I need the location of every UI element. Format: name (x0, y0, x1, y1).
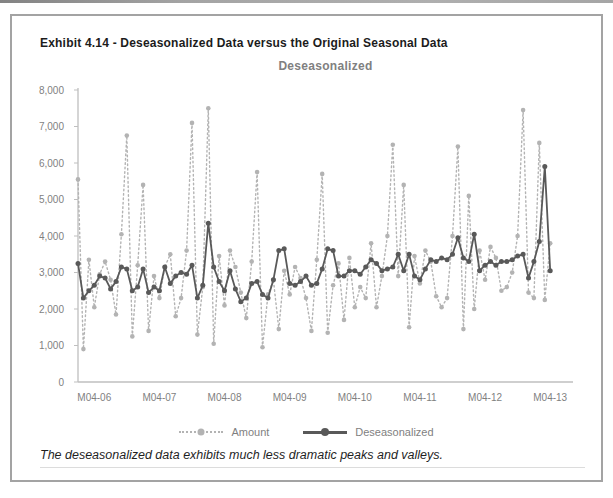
amount-data-point-marker (472, 307, 477, 312)
y-tick-label: 1,000 (39, 340, 64, 351)
deseasonalized-data-point-marker (374, 261, 379, 266)
deseasonalized-data-point-marker (504, 259, 509, 264)
deseasonalized-data-point-marker (238, 299, 243, 304)
amount-data-point-marker (190, 121, 195, 126)
deseasonalized-data-point-marker (493, 263, 498, 268)
x-tick-label: M04-06 (77, 392, 111, 403)
deseasonalized-data-point-marker (200, 283, 205, 288)
deseasonalized-data-point-marker (233, 286, 238, 291)
deseasonalized-data-point-marker (130, 288, 135, 293)
amount-data-point-marker (157, 296, 162, 301)
deseasonalized-data-point-marker (179, 270, 184, 275)
amount-data-point-marker (304, 296, 309, 301)
deseasonalized-data-point-marker (162, 265, 167, 270)
legend-label-amount: Amount (231, 426, 269, 438)
y-tick-label: 7,000 (39, 121, 64, 132)
amount-data-point-marker (309, 329, 314, 334)
amount-data-point-marker (467, 194, 472, 199)
deseasonalized-data-point-marker (472, 232, 477, 237)
deseasonalized-data-point-marker (412, 274, 417, 279)
x-tick-label: M04-08 (208, 392, 242, 403)
amount-data-point-marker (249, 259, 254, 264)
amount-data-point-marker (206, 106, 211, 111)
amount-data-point-marker (347, 256, 352, 261)
deseasonalized-data-point-marker (526, 276, 531, 281)
amount-data-point-marker (92, 305, 97, 310)
caption-rule (40, 467, 585, 468)
deseasonalized-data-point-marker (531, 259, 536, 264)
amount-data-point-marker (543, 298, 548, 303)
amount-data-point-marker (434, 294, 439, 299)
amount-data-point-marker (152, 274, 157, 279)
y-tick-label: 4,000 (39, 231, 64, 242)
deseasonalized-data-point-marker (450, 252, 455, 257)
amount-data-point-marker (184, 248, 189, 253)
amount-data-point-marker (488, 245, 493, 250)
deseasonalized-data-point-marker (325, 246, 330, 251)
amount-data-point-marker (385, 234, 390, 239)
x-tick-label: M04-10 (338, 392, 372, 403)
deseasonalized-data-point-marker (287, 281, 292, 286)
deseasonalized-data-point-marker (108, 286, 113, 291)
y-tick-label: 6,000 (39, 158, 64, 169)
deseasonalized-data-point-marker (141, 266, 146, 271)
deseasonalized-data-point-marker (417, 277, 422, 282)
deseasonalized-data-point-marker (255, 279, 260, 284)
amount-data-point-marker (277, 327, 282, 332)
deseasonalized-data-point-marker (97, 274, 102, 279)
amount-data-point-marker (76, 177, 81, 182)
deseasonalized-data-point-marker (211, 265, 216, 270)
deseasonalized-data-point-marker (309, 283, 314, 288)
amount-data-point-marker (407, 325, 412, 330)
deseasonalized-data-point-marker (510, 257, 515, 262)
amount-data-point-marker (114, 312, 119, 317)
deseasonalized-data-point-marker (76, 261, 81, 266)
amount-data-point-marker (282, 268, 287, 273)
amount-data-point-marker (168, 252, 173, 257)
deseasonalized-data-point-marker (271, 277, 276, 282)
deseasonalized-data-point-marker (428, 257, 433, 262)
amount-data-point-marker (477, 248, 482, 253)
amount-data-point-marker (81, 347, 86, 352)
deseasonalized-series-line (78, 167, 550, 302)
x-tick-label: M04-07 (142, 392, 176, 403)
deseasonalized-data-point-marker (157, 288, 162, 293)
amount-data-point-marker (510, 270, 515, 275)
amount-data-point-marker (363, 296, 368, 301)
amount-data-point-marker (179, 296, 184, 301)
deseasonalized-data-point-marker (439, 255, 444, 260)
deseasonalized-data-point-marker (396, 252, 401, 257)
amount-data-point-marker (233, 265, 238, 270)
amount-data-point-marker (396, 274, 401, 279)
deseasonalized-data-point-marker (119, 265, 124, 270)
x-tick-label: M04-11 (403, 392, 437, 403)
deseasonalized-data-point-marker (515, 254, 520, 259)
amount-data-point-marker (515, 234, 520, 239)
amount-line-swatch (179, 427, 223, 437)
amount-data-point-marker (325, 330, 330, 335)
chart-legend: Amount Deseasonalized (0, 426, 613, 438)
amount-data-point-marker (108, 278, 113, 283)
x-tick-label: M04-13 (533, 392, 567, 403)
deseasonalized-data-point-marker (114, 279, 119, 284)
figure-page: Exhibit 4.14 - Deseasonalized Data versu… (0, 0, 613, 498)
amount-data-point-marker (369, 241, 374, 246)
deseasonalized-data-point-marker (124, 266, 129, 271)
legend-label-deseasonalized: Deseasonalized (355, 426, 433, 438)
deseasonalized-data-point-marker (483, 263, 488, 268)
amount-data-point-marker (391, 143, 396, 148)
x-tick-label: M04-09 (273, 392, 307, 403)
deseasonalized-data-point-marker (152, 285, 157, 290)
deseasonalized-data-point-marker (304, 274, 309, 279)
deseasonalized-data-point-marker (184, 272, 189, 277)
deseasonalized-data-point-marker (276, 248, 281, 253)
amount-data-point-marker (146, 329, 151, 334)
amount-data-point-marker (320, 172, 325, 177)
amount-data-point-marker (499, 289, 504, 294)
deseasonalized-line-swatch (303, 427, 347, 437)
y-tick-label: 5,000 (39, 194, 64, 205)
line-chart: 01,0002,0003,0004,0005,0006,0007,0008,00… (0, 0, 613, 498)
deseasonalized-data-point-marker (434, 259, 439, 264)
x-tick-label: M04-12 (468, 392, 502, 403)
amount-data-point-marker (293, 265, 298, 270)
